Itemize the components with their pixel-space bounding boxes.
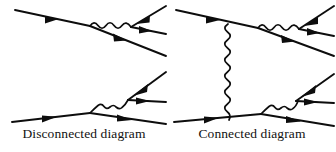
disconnected-diagram-caption: Disconnected diagram bbox=[0, 126, 168, 142]
arrow-head-outgoing-middle-right-lower-right-panel bbox=[304, 99, 318, 106]
upper-right-subdiagram bbox=[176, 6, 334, 56]
connected-diagram-panel: Connected diagram bbox=[168, 0, 336, 152]
outgoing-fermion-lower-right-lower bbox=[90, 113, 166, 124]
incoming-fermion-upper-left-right-panel bbox=[176, 10, 258, 28]
connected-diagram-svg bbox=[168, 0, 336, 130]
arrow-head-outgoing-middle-right-upper bbox=[139, 26, 152, 34]
outgoing-fermion-lower-right-upper-right-panel bbox=[258, 28, 334, 56]
photon-rising-lower bbox=[90, 100, 128, 113]
photon-vertical-exchange bbox=[225, 24, 231, 120]
incoming-fermion-upper-right-right-panel bbox=[299, 6, 334, 29]
feynman-diagram-figure: Disconnected diagram bbox=[0, 0, 336, 152]
arrow-head-outgoing-middle-right-upper-right-panel bbox=[307, 28, 320, 36]
arrow-head-outgoing-lower-right-upper bbox=[113, 34, 127, 42]
incoming-fermion-upper-left bbox=[15, 10, 90, 26]
outgoing-fermion-lower-right-lower-right-panel bbox=[261, 114, 334, 126]
lower-left-subdiagram bbox=[12, 72, 166, 124]
connected-diagram-caption: Connected diagram bbox=[168, 126, 336, 142]
photon-rising-lower-right-panel bbox=[261, 101, 298, 114]
arrow-head-outgoing-middle-right-lower bbox=[136, 98, 150, 105]
disconnected-diagram-panel: Disconnected diagram bbox=[0, 0, 168, 152]
upper-left-subdiagram bbox=[15, 6, 166, 56]
disconnected-diagram-svg bbox=[0, 0, 168, 130]
lower-right-subdiagram bbox=[174, 74, 334, 126]
outgoing-fermion-lower-right-upper bbox=[90, 26, 166, 56]
